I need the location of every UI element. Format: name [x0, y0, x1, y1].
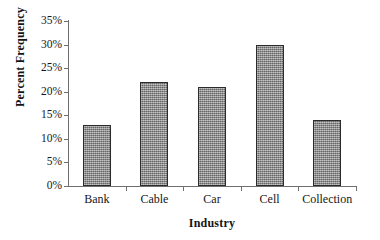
plot-area [68, 21, 356, 186]
bar [198, 87, 226, 186]
bar [140, 82, 168, 186]
x-axis-tick [298, 187, 299, 191]
bar-slot [183, 21, 241, 186]
y-axis-tick-label: 5% [22, 156, 62, 168]
bar-slot [298, 21, 356, 186]
y-axis-tick [64, 186, 68, 187]
x-axis-tick [241, 187, 242, 191]
bar [83, 125, 111, 186]
y-axis-tick-label: 15% [22, 109, 62, 121]
x-axis-tick [126, 187, 127, 191]
y-axis-tick-label: 0% [22, 180, 62, 192]
y-axis-tick-label: 10% [22, 133, 62, 145]
bar-chart: Percent Frequency 0%5%10%15%20%25%30%35%… [0, 0, 380, 240]
bar [313, 120, 341, 186]
x-axis-tick-label: Cell [241, 192, 299, 206]
bar [256, 45, 284, 186]
y-axis-tick-label: 20% [22, 86, 62, 98]
y-axis-tick-label: 35% [22, 15, 62, 27]
x-axis-tick-label: Cable [126, 192, 184, 206]
bar-slot [241, 21, 299, 186]
x-axis-tick-label: Collection [298, 192, 356, 206]
y-axis-tick-labels: 0%5%10%15%20%25%30%35% [22, 14, 62, 186]
x-axis-tick [356, 187, 357, 191]
x-axis-line [68, 186, 357, 187]
x-axis-title: Industry [68, 216, 356, 230]
y-axis-tick-label: 25% [22, 62, 62, 74]
x-axis-tick-label: Car [183, 192, 241, 206]
x-axis-tick-label: Bank [68, 192, 126, 206]
y-axis-tick-label: 30% [22, 39, 62, 51]
x-axis-tick-labels: BankCableCarCellCollection [68, 192, 356, 210]
bar-slot [68, 21, 126, 186]
bar-series [68, 21, 356, 186]
x-axis-tick [183, 187, 184, 191]
bar-slot [126, 21, 184, 186]
